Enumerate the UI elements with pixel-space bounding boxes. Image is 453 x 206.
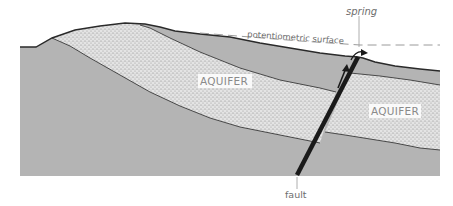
aquifer-label-right: AQUIFER xyxy=(371,105,419,117)
spring-label: spring xyxy=(346,6,377,17)
aquifer-label-left: AQUIFER xyxy=(200,75,248,87)
aquifer-cross-section-diagram: AQUIFER AQUIFER potentiometric surface s… xyxy=(0,0,453,206)
fault-label: fault xyxy=(285,189,307,200)
